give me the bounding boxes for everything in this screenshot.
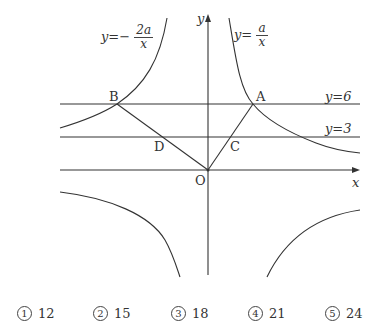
point-o-label: O (195, 174, 206, 187)
curve-right-label: y= ax (234, 22, 268, 48)
x-axis-label: x (352, 176, 359, 189)
curve-right-numerator: a (256, 22, 267, 36)
circled-number-icon: 2 (93, 306, 108, 321)
y-axis-label: y (197, 12, 204, 25)
choice-4[interactable]: 4 21 (248, 306, 286, 321)
curve-right-denominator: x (259, 36, 266, 49)
choice-value: 24 (346, 306, 363, 321)
circled-number-icon: 1 (17, 306, 32, 321)
curve-left-denominator: x (140, 38, 147, 51)
answer-choices: 1 12 2 15 3 18 4 21 5 24 (0, 306, 378, 326)
choice-value: 12 (38, 306, 55, 321)
circled-number-icon: 3 (171, 306, 186, 321)
curve-neg-2a-over-x-q4 (267, 210, 360, 277)
curve-right-prefix: y= (234, 27, 252, 42)
choice-1[interactable]: 1 12 (17, 306, 55, 321)
curve-left-prefix: y=− (101, 29, 130, 44)
choice-3[interactable]: 3 18 (171, 306, 209, 321)
curve-left-numerator: 2a (134, 24, 153, 38)
point-b-label: B (109, 90, 119, 103)
circled-number-icon: 5 (325, 306, 340, 321)
x-axis-arrow-icon (352, 167, 360, 173)
choice-value: 18 (192, 306, 209, 321)
circled-number-icon: 4 (248, 306, 263, 321)
curve-left-label: y=− 2ax (101, 24, 153, 50)
choice-5[interactable]: 5 24 (325, 306, 363, 321)
choice-value: 21 (269, 306, 286, 321)
point-a-label: A (256, 90, 265, 103)
line-y6-label: y=6 (325, 90, 352, 103)
curve-a-over-x-q3 (60, 192, 180, 277)
y-axis-arrow-icon (205, 14, 211, 22)
choice-2[interactable]: 2 15 (93, 306, 131, 321)
point-c-label: C (230, 140, 240, 153)
line-y3-label: y=3 (325, 122, 352, 135)
point-d-label: D (154, 140, 164, 153)
origin-point (207, 169, 210, 172)
choice-value: 15 (114, 306, 131, 321)
coordinate-diagram (0, 0, 378, 335)
